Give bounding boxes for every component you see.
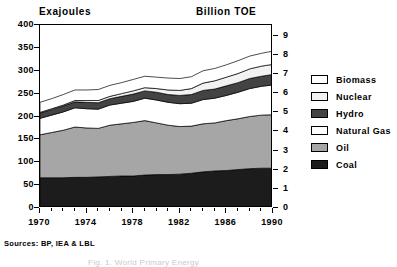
legend-item-nuclear[interactable]: Nuclear [311,88,391,105]
x-axis-tick-mark-minor [202,208,203,211]
x-axis-tick-mark-minor [156,208,157,211]
x-axis-tick-mark-minor [214,208,215,211]
x-axis-tick-mark-minor [190,208,191,211]
legend-item-hydro[interactable]: Hydro [311,105,391,122]
legend-item-label: Nuclear [336,92,372,102]
right-axis-tick-mark [273,188,278,189]
x-axis-tick-mark-major [86,208,87,213]
right-axis-tick-mark [273,207,278,208]
left-axis-tick-label: 50 [0,179,34,189]
right-axis-tick-label: 9 [283,30,313,40]
legend-swatch-icon [311,143,328,152]
legend-item-oil[interactable]: Oil [311,139,391,156]
legend-swatch-icon [311,160,328,169]
legend-swatch-icon [311,75,328,84]
x-axis-tick-mark-minor [74,208,75,211]
x-axis-tick-mark-minor [97,208,98,211]
right-axis-tick-mark [273,130,278,131]
x-axis-tick-label: 1978 [112,217,152,227]
left-axis-tick-label: 100 [0,156,34,166]
right-axis-tick-mark [273,54,278,55]
right-axis-tick-label: 8 [283,49,313,59]
x-axis-tick-mark-major [39,208,40,213]
x-axis-tick-mark-minor [237,208,238,211]
x-axis-tick-mark-major [225,208,226,213]
right-axis-tick-label: 1 [283,183,313,193]
legend-swatch-icon [311,126,328,135]
right-axis-tick-mark [273,35,278,36]
left-axis-tick-label: 0 [0,202,34,212]
x-axis-tick-mark-major [179,208,180,213]
x-axis-tick-mark-minor [62,208,63,211]
x-axis-tick-label: 1974 [66,217,106,227]
legend-item-label: Natural Gas [336,126,391,136]
left-axis-tick-label: 300 [0,65,34,75]
x-axis-tick-label: 1970 [19,217,59,227]
left-axis-tick-label: 400 [0,19,34,29]
legend-item-label: Hydro [336,109,364,119]
area-series-group [40,25,272,207]
left-axis-tick-label: 200 [0,111,34,121]
right-axis-tick-mark [273,169,278,170]
x-axis-tick-mark-minor [144,208,145,211]
right-axis-tick-label: 3 [283,145,313,155]
x-axis-tick-mark-minor [109,208,110,211]
x-axis-tick-label: 1982 [159,217,199,227]
figure-caption: Fig. 1. World Primary Energy [88,258,199,267]
legend-item-biomass[interactable]: Biomass [311,71,391,88]
sources-note: Sources: BP, IEA & LBL [4,239,95,248]
x-axis-tick-mark-major [132,208,133,213]
x-axis-tick-label: 1990 [252,217,292,227]
x-axis-tick-mark-minor [260,208,261,211]
legend-swatch-icon [311,109,328,118]
legend-item-label: Coal [336,160,357,170]
legend-swatch-icon [311,92,328,101]
x-axis-tick-label: 1986 [205,217,245,227]
left-axis-tick-label: 350 [0,42,34,52]
x-axis-tick-mark-minor [121,208,122,211]
right-axis-tick-label: 2 [283,164,313,174]
right-axis-tick-mark [273,92,278,93]
left-axis-tick-label: 150 [0,133,34,143]
legend-item-label: Biomass [336,75,376,85]
x-axis-tick-mark-major [272,208,273,213]
legend-item-natural-gas[interactable]: Natural Gas [311,122,391,139]
right-axis-tick-label: 4 [283,125,313,135]
right-axis-tick-mark [273,150,278,151]
x-axis-tick-mark-minor [51,208,52,211]
right-axis-tick-mark [273,73,278,74]
right-axis-tick-label: 7 [283,68,313,78]
legend-item-label: Oil [336,143,349,153]
right-axis-unit-title: Billion TOE [196,6,256,17]
right-axis-tick-label: 0 [283,202,313,212]
right-axis-tick-label: 6 [283,87,313,97]
legend: BiomassNuclearHydroNatural GasOilCoal [311,71,391,173]
x-axis-tick-mark-minor [167,208,168,211]
left-axis-unit-title: Exajoules [39,6,91,17]
x-axis-tick-mark-minor [249,208,250,211]
left-axis-tick-label: 250 [0,88,34,98]
plot-area [39,24,272,207]
legend-item-coal[interactable]: Coal [311,156,391,173]
right-axis-tick-mark [273,111,278,112]
right-axis-tick-label: 5 [283,106,313,116]
